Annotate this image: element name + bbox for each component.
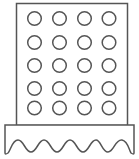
board-frame <box>17 4 128 126</box>
wavy-base <box>5 125 134 154</box>
game-board-icon <box>0 0 139 159</box>
